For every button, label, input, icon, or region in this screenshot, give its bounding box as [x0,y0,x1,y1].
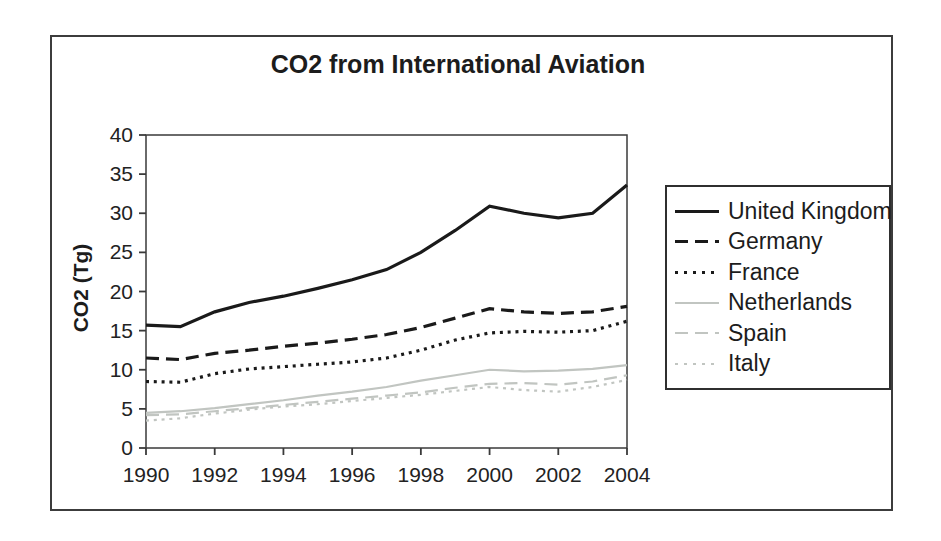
y-tick-label: 10 [110,358,133,381]
legend-label: Netherlands [728,289,852,316]
legend-label: Germany [728,228,823,255]
legend-line-sample-france [675,271,719,274]
y-tick-label: 40 [110,123,133,146]
legend-item-netherlands: Netherlands [675,291,885,315]
series-line-united-kingdom [146,185,627,327]
x-tick-label: 1990 [123,463,170,486]
y-tick-label: 15 [110,319,133,342]
legend-line-sample-spain [675,332,719,334]
y-tick-label: 20 [110,280,133,303]
legend-line-sample-united-kingdom [675,210,719,213]
x-tick-label: 2000 [466,463,513,486]
y-tick-label: 5 [121,397,133,420]
series-line-netherlands [146,365,627,413]
legend-label: United Kingdom [728,198,892,225]
x-tick-label: 1996 [329,463,376,486]
y-tick-label: 0 [121,436,133,459]
legend-item-italy: Italy [675,352,885,376]
legend-label: Italy [728,350,770,377]
chart-figure: CO2 from International Aviation CO2 (Tg)… [0,0,941,541]
legend-item-germany: Germany [675,230,885,254]
x-tick-label: 1994 [260,463,307,486]
legend-line-sample-italy [675,363,719,365]
x-tick-label: 2002 [535,463,582,486]
series-line-spain [146,375,627,415]
legend: United Kingdom Germany France Netherland… [665,185,891,390]
legend-line-sample-germany [675,240,719,243]
legend-label: France [728,259,800,286]
y-tick-label: 30 [110,201,133,224]
legend-item-united-kingdom: United Kingdom [675,199,885,223]
x-tick-label: 2004 [604,463,651,486]
x-tick-label: 1992 [191,463,238,486]
y-tick-label: 25 [110,240,133,263]
x-tick-label: 1998 [397,463,444,486]
plot-border [146,135,627,448]
legend-item-france: France [675,260,885,284]
legend-label: Spain [728,320,787,347]
legend-item-spain: Spain [675,321,885,345]
legend-line-sample-netherlands [675,302,719,304]
y-tick-label: 35 [110,162,133,185]
